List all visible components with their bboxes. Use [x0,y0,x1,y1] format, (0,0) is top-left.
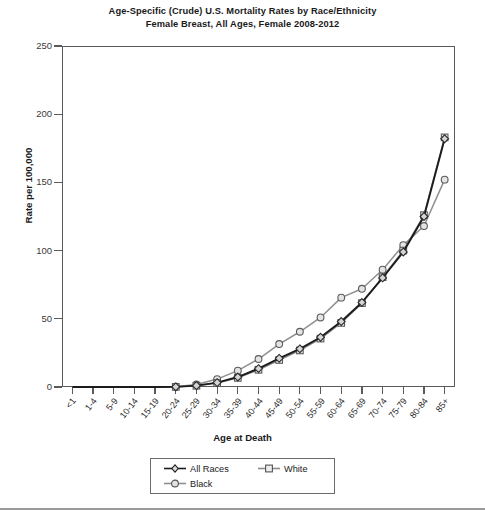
data-point-marker [255,356,262,363]
data-point-marker [296,328,303,335]
legend-label-all-races: All Races [190,464,229,474]
data-point-marker [317,314,324,321]
data-point-marker [359,285,366,292]
chart-legend: All Races White Black [150,458,335,494]
chart-container: Age-Specific (Crude) U.S. Mortality Rate… [0,0,485,521]
series-all-races [72,135,448,391]
legend-marker-square-icon [257,463,281,474]
legend-label-white: White [284,464,308,474]
data-point-marker [276,341,283,348]
legend-item-all-races[interactable]: All Races [163,463,229,474]
legend-item-black[interactable]: Black [163,478,212,489]
legend-marker-diamond-icon [163,463,187,474]
legend-label-black: Black [190,479,212,489]
legend-item-white[interactable]: White [257,463,308,474]
data-point-marker [379,266,386,273]
data-point-marker [338,294,345,301]
data-point-marker [421,223,428,230]
series-white [72,134,448,390]
series-black [72,176,448,390]
legend-marker-circle-icon [163,478,187,489]
footer-divider [0,508,485,510]
data-point-marker [441,176,448,183]
data-series-layer [0,0,485,521]
